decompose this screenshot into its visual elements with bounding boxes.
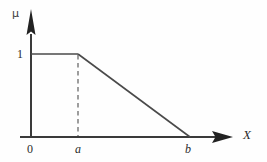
y-tick-label-one: 1 — [17, 48, 23, 60]
x-axis-label: X — [243, 128, 251, 141]
origin-label: 0 — [27, 143, 33, 155]
x-tick-label-b: b — [185, 143, 191, 155]
x-tick-label-a: a — [75, 143, 81, 155]
plot-canvas — [0, 0, 267, 162]
arrow-up-icon — [27, 9, 36, 35]
fuzzy-membership-figure: μ X 1 0 a b — [0, 0, 267, 162]
descending-ramp-segment — [78, 54, 190, 137]
y-axis-label: μ — [12, 8, 19, 19]
